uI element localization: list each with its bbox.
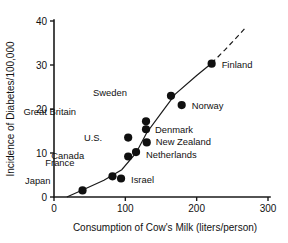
data-point bbox=[108, 172, 116, 180]
data-point bbox=[178, 101, 186, 109]
data-point-label: Netherlands bbox=[146, 149, 197, 160]
x-axis-title: Consumption of Cow's Milk (liters/person… bbox=[73, 222, 257, 233]
x-tick-label: 200 bbox=[188, 203, 205, 214]
data-point bbox=[117, 174, 125, 182]
data-point-label: Denmark bbox=[155, 124, 193, 135]
x-tick-label: 100 bbox=[117, 203, 134, 214]
x-tick-label: 0 bbox=[51, 203, 57, 214]
data-point-label: U.S. bbox=[84, 132, 102, 143]
data-point-labels-layer: JapanFranceIsraelCanadaNetherlandsU.S.Gr… bbox=[23, 59, 252, 187]
data-point bbox=[132, 148, 140, 156]
data-point bbox=[167, 92, 175, 100]
y-tick-label: 0 bbox=[41, 192, 47, 203]
data-point-label: Sweden bbox=[93, 87, 127, 98]
data-point bbox=[142, 125, 150, 133]
data-point-label: New Zealand bbox=[156, 136, 211, 147]
data-point bbox=[78, 186, 86, 194]
data-point bbox=[142, 117, 150, 125]
y-tick-label: 40 bbox=[36, 16, 48, 27]
data-point bbox=[124, 134, 132, 142]
y-axis-title: Incidence of Diabetes/100,000 bbox=[5, 41, 16, 177]
data-point-label: Canada bbox=[51, 150, 85, 161]
data-point-label: Japan bbox=[25, 175, 51, 186]
y-tick-label: 30 bbox=[36, 60, 48, 71]
data-point-label: Israel bbox=[131, 174, 154, 185]
data-point-label: Norway bbox=[192, 100, 224, 111]
x-tick-label: 300 bbox=[260, 203, 277, 214]
data-point bbox=[208, 60, 216, 68]
data-point bbox=[124, 152, 132, 160]
data-point-label: Finland bbox=[222, 59, 253, 70]
data-point bbox=[143, 138, 151, 146]
data-point-label: Great Britain bbox=[23, 106, 76, 117]
diabetes-milk-scatter-chart: 010203040 0100200300 JapanFranceIsraelCa… bbox=[0, 0, 288, 243]
chart-canvas: 010203040 0100200300 JapanFranceIsraelCa… bbox=[0, 0, 288, 243]
x-axis-ticks: 0100200300 bbox=[51, 197, 277, 214]
